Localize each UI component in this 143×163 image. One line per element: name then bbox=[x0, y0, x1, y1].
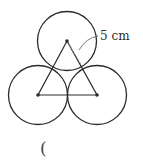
figure bbox=[0, 0, 143, 163]
radius-label: 5 cm bbox=[100, 29, 130, 43]
center-dot-top bbox=[65, 39, 69, 43]
answer-blank: ( bbox=[40, 138, 47, 158]
radius-dashed-line bbox=[67, 41, 82, 66]
triangle bbox=[38, 41, 97, 95]
center-dot-bottom-left bbox=[36, 93, 40, 97]
center-dot-bottom-right bbox=[95, 93, 99, 97]
